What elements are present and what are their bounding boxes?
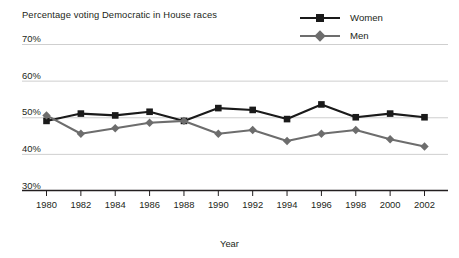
data-point-men: [352, 126, 360, 134]
data-series-layer: [42, 101, 428, 151]
data-point-women: [387, 110, 394, 117]
y-axis-label: 50%: [22, 106, 41, 117]
series-line-men: [47, 115, 425, 146]
data-point-men: [111, 124, 119, 132]
data-point-women: [352, 114, 359, 121]
data-point-men: [145, 119, 153, 127]
y-axis-label: 40%: [22, 143, 41, 154]
y-axis-label: 70%: [22, 33, 41, 44]
data-point-women: [78, 110, 85, 117]
axis-ticks: [47, 191, 425, 197]
x-axis-title: Year: [0, 238, 459, 249]
plot-area: [0, 0, 459, 258]
data-point-men: [283, 137, 291, 145]
data-point-women: [318, 101, 325, 108]
data-point-women: [146, 108, 153, 115]
data-point-men: [214, 130, 222, 138]
data-point-men: [420, 142, 428, 150]
x-axis-label: 2002: [405, 199, 445, 210]
y-axis-label: 60%: [22, 70, 41, 81]
y-axis-label: 30%: [22, 180, 41, 191]
data-point-men: [248, 126, 256, 134]
data-point-men: [386, 135, 394, 143]
data-point-women: [284, 116, 291, 123]
series-line-women: [47, 104, 425, 120]
data-point-women: [249, 107, 256, 114]
chart-container: Percentage voting Democratic in House ra…: [0, 0, 459, 258]
data-point-women: [112, 112, 119, 119]
data-point-men: [317, 130, 325, 138]
data-point-women: [421, 114, 428, 121]
data-point-men: [77, 130, 85, 138]
data-point-women: [215, 105, 222, 112]
